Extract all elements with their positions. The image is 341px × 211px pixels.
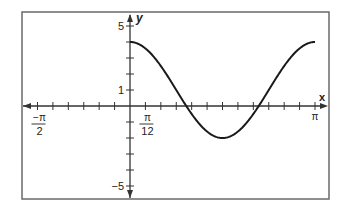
- svg-text:π: π: [144, 112, 151, 123]
- svg-text:2: 2: [36, 125, 42, 137]
- y-tick-label: 5: [118, 20, 124, 32]
- chart: −π2π12π51−5 y x: [0, 0, 341, 211]
- svg-text:12: 12: [141, 125, 153, 137]
- x-tick-label: π: [312, 111, 319, 122]
- x-axis-label: x: [319, 91, 326, 103]
- x-tick-label: π12: [139, 112, 153, 137]
- x-axis-right-arrow-icon: [320, 103, 328, 109]
- y-axis-label: y: [135, 11, 144, 25]
- y-tick-label: −5: [111, 180, 124, 192]
- svg-text:π: π: [312, 111, 319, 122]
- function-curve: [130, 42, 315, 138]
- x-axis-left-arrow-icon: [23, 103, 31, 109]
- y-axis-up-arrow-icon: [127, 14, 133, 22]
- x-tick-label: −π2: [31, 112, 45, 137]
- svg-text:−π: −π: [33, 112, 46, 123]
- y-axis-down-arrow-icon: [127, 190, 133, 198]
- y-tick-label: 1: [118, 84, 124, 96]
